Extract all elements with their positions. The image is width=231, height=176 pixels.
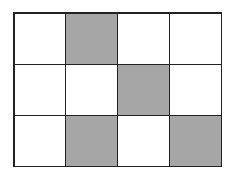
empty-cell bbox=[14, 115, 67, 167]
shaded-cell bbox=[117, 64, 170, 116]
shaded-grid bbox=[13, 12, 222, 167]
empty-cell bbox=[169, 13, 222, 65]
empty-cell bbox=[117, 115, 170, 167]
shaded-cell bbox=[65, 115, 118, 167]
empty-cell bbox=[169, 64, 222, 116]
shaded-cell bbox=[169, 115, 222, 167]
empty-cell bbox=[117, 13, 170, 65]
empty-cell bbox=[14, 64, 67, 116]
shaded-cell bbox=[65, 13, 118, 65]
empty-cell bbox=[65, 64, 118, 116]
empty-cell bbox=[14, 13, 67, 65]
